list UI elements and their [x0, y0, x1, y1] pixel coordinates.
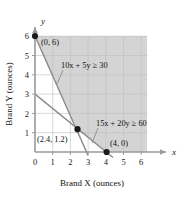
point-2.4-1.2 — [74, 126, 80, 132]
graph-canvas: 0 1 2 3 4 5 6 1 2 3 4 5 6 x y (0, 6) (2.… — [0, 0, 185, 199]
y-tick-5: 5 — [25, 51, 29, 61]
point-label-4-0: (4, 0) — [110, 139, 128, 148]
x-tick-6: 6 — [139, 157, 143, 167]
x-tick-1: 1 — [51, 157, 55, 167]
annotation-15x-20y-60: 15x + 20y ≥ 60 — [96, 119, 147, 128]
x-tick-4: 4 — [104, 157, 109, 167]
point-label-2.4-1.2: (2.4, 1.2) — [37, 135, 68, 144]
x-axis-symbol: x — [171, 147, 176, 157]
point-0-6 — [32, 33, 38, 39]
y-tick-2: 2 — [25, 109, 29, 119]
x-tick-0: 0 — [33, 157, 37, 167]
y-axis-symbol: y — [40, 16, 45, 26]
x-axis-title: Brand X (ounces) — [60, 178, 124, 188]
annotation-10x-5y-30: 10x + 5y ≥ 30 — [61, 61, 108, 70]
y-tick-3: 3 — [25, 89, 29, 99]
point-4-0 — [104, 149, 110, 155]
y-tick-4: 4 — [25, 70, 30, 80]
x-tick-2: 2 — [68, 157, 72, 167]
y-axis-title: Brand Y (ounces) — [4, 62, 14, 125]
y-tick-6: 6 — [25, 31, 29, 41]
x-tick-3: 3 — [86, 157, 90, 167]
y-tick-1: 1 — [25, 128, 29, 138]
x-tick-5: 5 — [121, 157, 125, 167]
point-label-0-6: (0, 6) — [41, 38, 59, 47]
linear-programming-graph: 0 1 2 3 4 5 6 1 2 3 4 5 6 x y (0, 6) (2.… — [0, 0, 185, 199]
